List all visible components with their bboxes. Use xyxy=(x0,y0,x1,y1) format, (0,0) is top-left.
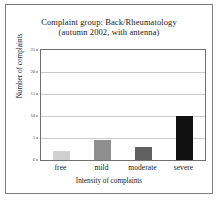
y-tick-mark xyxy=(36,138,38,139)
y-tick-label: 5 xyxy=(33,136,35,141)
bar-mild xyxy=(94,140,111,160)
figure-frame: Complaint group: Back/Rheumatology (autu… xyxy=(5,4,213,194)
y-tick-label: 0 xyxy=(33,158,35,163)
plot-area xyxy=(40,49,206,161)
bar-severe xyxy=(176,116,193,160)
bar-free xyxy=(53,151,70,160)
x-tick-label-moderate: moderate xyxy=(128,163,156,172)
y-tick-mark xyxy=(36,160,38,161)
x-tick-label-severe: severe xyxy=(174,163,193,172)
x-axis-tick-labels: freemildmoderatesevere xyxy=(40,163,206,175)
chart-title: Complaint group: Back/Rheumatology (autu… xyxy=(6,17,212,37)
y-tick-label: 25 xyxy=(30,48,35,53)
y-tick-mark xyxy=(36,72,38,73)
y-axis-tick-labels: 0510152025 xyxy=(6,49,38,161)
x-axis-title: Intensity of complaints xyxy=(6,177,212,185)
x-tick-label-free: free xyxy=(55,163,67,172)
bars-layer xyxy=(41,50,205,160)
y-tick-mark xyxy=(36,116,38,117)
x-tick-label-mild: mild xyxy=(95,163,109,172)
y-tick-label: 10 xyxy=(30,114,35,119)
chart-title-main: Complaint group: Back/Rheumatology xyxy=(41,17,177,27)
y-tick-mark xyxy=(36,94,38,95)
y-tick-mark xyxy=(36,50,38,51)
y-tick-label: 20 xyxy=(30,70,35,75)
bar-moderate xyxy=(135,147,152,160)
chart-subtitle: (autumn 2002, with antenna) xyxy=(6,27,212,37)
y-tick-label: 15 xyxy=(30,92,35,97)
